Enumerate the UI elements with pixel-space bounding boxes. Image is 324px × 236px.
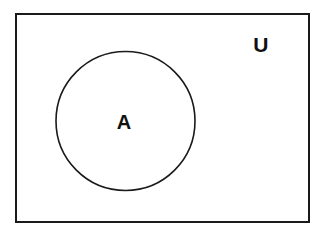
venn-diagram-figure: U A <box>0 0 324 236</box>
set-a-label: A <box>0 112 286 132</box>
universal-set-label: U <box>99 34 324 55</box>
